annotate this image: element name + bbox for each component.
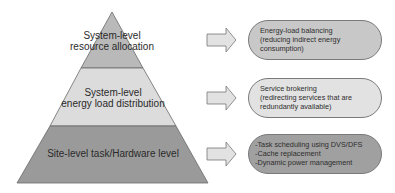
label-line: System-level xyxy=(62,30,162,41)
arrow-icon xyxy=(207,28,236,52)
box-line: Service brokering xyxy=(260,84,373,93)
pyramid-label-top: System-level resource allocation xyxy=(62,30,162,52)
box-line: -Cache replacement xyxy=(255,149,373,158)
box-line: consumption) xyxy=(260,44,373,53)
label-line: energy load distribution xyxy=(50,98,176,109)
box-line: (reducing indirect energy xyxy=(260,35,373,44)
description-box-service-brokering: Service brokering (redirecting services … xyxy=(248,78,382,118)
pyramid-label-bottom: Site-level task/Hardware level xyxy=(20,148,206,159)
box-line: (redirecting services that are xyxy=(260,93,373,102)
label-line: System-level xyxy=(50,87,176,98)
arrow-icon xyxy=(207,142,236,166)
label-line: resource allocation xyxy=(62,41,162,52)
description-box-energy-load: Energy-load balancing (reducing indirect… xyxy=(248,20,382,60)
box-line: -Task scheduling using DVS/DFS xyxy=(255,140,373,149)
box-line: redundantly available) xyxy=(260,102,373,111)
box-line: Energy-load balancing xyxy=(260,26,373,35)
description-box-task-scheduling: -Task scheduling using DVS/DFS -Cache re… xyxy=(248,134,382,174)
arrow-icon xyxy=(207,86,236,110)
pyramid-label-middle: System-level energy load distribution xyxy=(50,87,176,109)
box-line: -Dynamic power management xyxy=(255,158,373,167)
label-line: Site-level task/Hardware level xyxy=(20,148,206,159)
